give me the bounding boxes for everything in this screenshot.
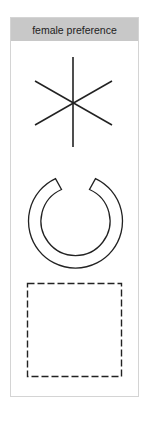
asterisk-icon	[35, 57, 112, 147]
dashed-square-icon	[28, 284, 122, 377]
broken-ring-icon	[28, 179, 122, 269]
shapes-canvas	[0, 0, 151, 421]
